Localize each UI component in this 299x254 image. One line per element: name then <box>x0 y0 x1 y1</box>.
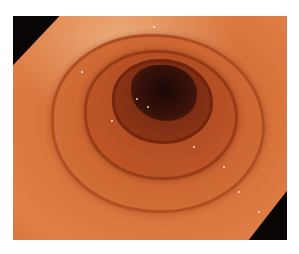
colon-mucosa <box>13 16 287 240</box>
light-reflection <box>153 26 155 28</box>
light-reflection <box>258 211 260 213</box>
light-reflection <box>111 120 113 122</box>
light-reflection <box>147 106 149 108</box>
light-reflection <box>238 191 240 193</box>
light-reflection <box>193 146 195 148</box>
light-reflection <box>136 98 138 100</box>
light-reflection <box>81 71 83 73</box>
light-reflection <box>223 166 225 168</box>
endoscopy-image <box>13 16 287 240</box>
